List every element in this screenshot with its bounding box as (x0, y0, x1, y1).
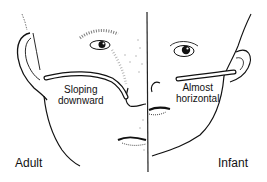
infant-tube-label-line2: horizontal (176, 93, 219, 104)
adult-jaw (44, 96, 80, 166)
adult-ear (18, 33, 48, 100)
face-illustration (0, 0, 267, 182)
adult-caption: Adult (15, 157, 42, 170)
infant-tube-label: Almost horizontal (176, 82, 219, 104)
infant-caption: Infant (218, 157, 248, 170)
infant-head-outline (224, 14, 251, 76)
infant-nose (151, 82, 160, 92)
adult-eyebrow (80, 31, 118, 38)
adult-mouth (118, 137, 146, 140)
infant-ear (230, 50, 250, 82)
adult-ear-rim (33, 33, 40, 70)
infant-pupil (182, 46, 190, 54)
adult-tube-label-line1: Sloping (58, 84, 104, 95)
adult-vs-infant-face-diagram: Sloping downward Almost horizontal Adult… (0, 0, 267, 182)
adult-tube-label: Sloping downward (58, 84, 104, 106)
infant-mouth (149, 108, 170, 110)
divider-line (147, 12, 148, 172)
adult-nose (126, 88, 146, 107)
adult-pupil (99, 41, 106, 48)
adult-hairline (22, 14, 27, 30)
infant-tube-label-line1: Almost (176, 82, 219, 93)
adult-tube-label-line2: downward (58, 95, 104, 106)
